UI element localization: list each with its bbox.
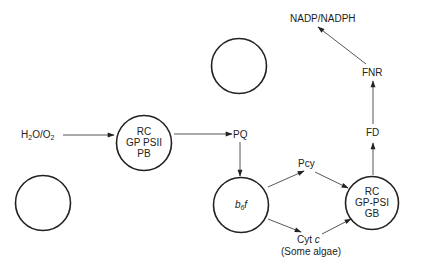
arrow-fnr-to-nadp xyxy=(318,27,366,64)
label-cytc: Cyt c xyxy=(297,234,320,245)
label-cytc-note: (Some algae) xyxy=(281,246,341,257)
node-b6f-text: b6f xyxy=(211,199,271,210)
label-nadp-nadph: NADP/NADPH xyxy=(290,13,356,24)
psii-line3: PB xyxy=(114,148,174,159)
psi-line3: GB xyxy=(342,208,402,219)
node-empty-left-circle xyxy=(16,176,71,231)
psii-line2: GP PSII xyxy=(114,137,174,148)
label-fnr: FNR xyxy=(362,67,383,78)
psii-line1: RC xyxy=(114,126,174,137)
node-empty-top-circle xyxy=(212,39,267,94)
psi-line1: RC xyxy=(342,186,402,197)
arrow-b6f-to-cytc xyxy=(268,219,301,232)
psi-line2: GP-PSI xyxy=(342,197,402,208)
arrow-cytc-to-psi xyxy=(322,219,351,234)
node-psi-text: RC GP-PSI GB xyxy=(342,186,402,219)
label-fd: FD xyxy=(366,127,379,138)
node-psii-text: RC GP PSII PB xyxy=(114,126,174,159)
diagram-canvas xyxy=(0,0,421,270)
arrow-b6f-to-pcy xyxy=(268,171,304,187)
label-pq: PQ xyxy=(233,129,247,140)
label-water-oxygen: H2O/O2 xyxy=(21,129,54,140)
label-pcy: Pcy xyxy=(298,158,315,169)
